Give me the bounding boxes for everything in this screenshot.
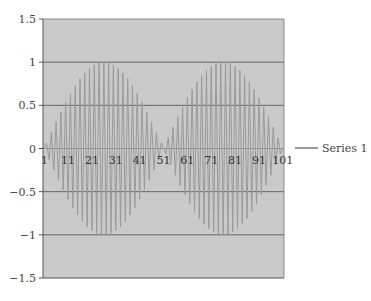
- legend-label: Series 1: [322, 142, 367, 155]
- y-tick-label: 1.5: [19, 13, 37, 26]
- x-tick-label: 31: [109, 154, 123, 167]
- x-tick-label: 71: [204, 154, 218, 167]
- x-tick-label: 91: [252, 154, 266, 167]
- chart: 1.510.50−0.5−1−1.5 111213141516171819110…: [0, 0, 371, 301]
- x-tick-label: 101: [272, 154, 293, 167]
- x-tick-label: 81: [228, 154, 242, 167]
- y-tick-label: 1: [29, 56, 36, 69]
- y-tick-label: −0.5: [9, 186, 36, 199]
- y-tick-label: 0.5: [19, 99, 37, 112]
- y-tick-label: −1: [20, 229, 36, 242]
- y-tick-label: 0: [29, 143, 36, 156]
- y-axis: 1.510.50−0.5−1−1.5: [9, 13, 43, 285]
- x-tick-label: 11: [61, 154, 75, 167]
- x-tick-label: 51: [157, 154, 171, 167]
- y-tick-label: −1.5: [9, 272, 36, 285]
- x-tick-label: 21: [85, 154, 99, 167]
- x-tick-label: 41: [133, 154, 147, 167]
- legend: Series 1: [295, 142, 367, 155]
- x-tick-label: 61: [180, 154, 194, 167]
- x-tick-label: 1: [41, 154, 48, 167]
